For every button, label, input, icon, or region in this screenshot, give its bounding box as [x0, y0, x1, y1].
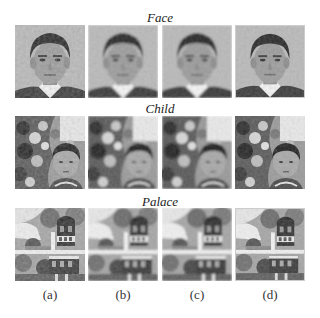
column-label-b: (b): [88, 288, 158, 302]
row-title-child: Child: [0, 102, 320, 115]
row-title-palace: Palace: [0, 195, 320, 208]
face-image-d: [235, 25, 305, 98]
child-image-b: [88, 116, 158, 189]
face-image-a: [15, 25, 85, 98]
column-label-a: (a): [15, 288, 85, 302]
face-image-c: [162, 25, 232, 98]
face-image-b: [88, 25, 158, 98]
palace-image-c: [162, 208, 232, 281]
child-image-c: [162, 116, 232, 189]
column-label-c: (c): [162, 288, 232, 302]
row-title-face: Face: [0, 11, 320, 24]
palace-image-a: [15, 208, 85, 281]
child-image-a: [15, 116, 85, 189]
palace-image-b: [88, 208, 158, 281]
column-label-d: (d): [235, 288, 305, 302]
child-image-d: [235, 116, 305, 189]
palace-image-d: [235, 208, 305, 281]
